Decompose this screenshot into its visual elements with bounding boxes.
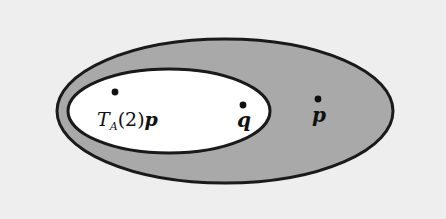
point-label-p: p	[312, 105, 326, 125]
point-dot-ta2p	[112, 89, 119, 96]
label-subscript-a: A	[110, 120, 118, 133]
figure-canvas: TA(2)p q p	[0, 0, 446, 219]
label-close-paren: )	[137, 108, 144, 130]
point-label-ta2p: TA(2)p	[97, 110, 158, 132]
label-symbol-t: T	[97, 108, 110, 130]
label-open-paren: (	[118, 108, 125, 130]
label-vector-p: p	[145, 108, 158, 130]
point-dot-p	[315, 96, 322, 103]
label-argument-2: 2	[125, 108, 137, 130]
point-label-q: q	[237, 110, 251, 130]
ellipse-diagram-svg	[0, 0, 446, 219]
